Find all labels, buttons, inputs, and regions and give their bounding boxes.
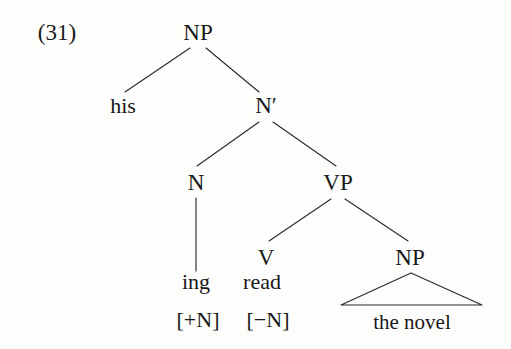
edge-nbar-to-vp	[273, 122, 336, 166]
feature-ing-plus-n: [+N]	[177, 307, 220, 332]
example-number: (31)	[38, 20, 76, 45]
edge-vp-to-v	[269, 199, 331, 241]
node-object-np: NP	[395, 245, 424, 270]
feature-read-minus-n: [−N]	[247, 307, 290, 332]
node-vp: VP	[323, 170, 352, 195]
terminal-his: his	[110, 93, 136, 118]
np-triangle-icon	[341, 273, 482, 305]
feature-labels: [+N] [−N]	[177, 307, 290, 332]
terminal-labels: his ing read the novel	[110, 93, 451, 334]
edge-np-to-nbar	[206, 48, 259, 92]
branch-lines	[125, 48, 408, 271]
tree-canvas: (31) NP N′ N VP V NP his ing read the	[0, 0, 511, 349]
edge-vp-to-np	[345, 199, 408, 241]
node-root-np: NP	[183, 20, 212, 45]
terminal-read: read	[243, 269, 281, 294]
syntax-tree-figure: (31) NP N′ N VP V NP his ing read the	[0, 0, 511, 349]
node-v: V	[258, 245, 275, 270]
terminal-ing: ing	[182, 269, 210, 294]
terminal-the-novel: the novel	[373, 310, 451, 334]
node-head-n: N	[188, 170, 205, 195]
category-labels: NP N′ N VP V NP	[183, 20, 424, 270]
edge-nbar-to-n	[197, 122, 259, 166]
edge-np-to-his	[125, 48, 190, 92]
node-n-bar: N′	[255, 93, 277, 118]
